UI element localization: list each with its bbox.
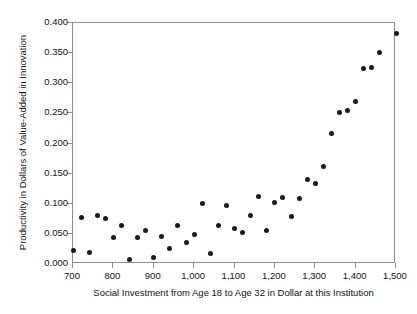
data-point [103,216,108,221]
y-tick-label: 0.300 [44,77,68,87]
data-point [361,66,366,71]
data-point [167,246,172,251]
y-tick-label: 0.150 [44,168,68,178]
data-point [111,235,116,240]
y-tick-label: 0.100 [44,198,68,208]
y-tick-label: 0.400 [44,17,68,27]
data-point [240,230,245,235]
x-tick-label: 1,400 [343,270,367,281]
data-point [216,223,221,228]
y-tick-label: 0.250 [44,107,68,117]
x-tick-mark [395,263,396,268]
x-tick-mark [234,263,235,268]
data-point [369,65,374,70]
x-tick-mark [193,263,194,268]
y-tick-label: 0.050 [44,228,68,238]
data-point [264,228,269,233]
data-point [208,251,213,256]
data-point [87,250,92,255]
y-tick-label: 0.350 [44,47,68,57]
data-point [71,248,76,253]
x-tick-mark [314,263,315,268]
data-point [394,31,399,36]
data-point [175,223,180,228]
data-point [200,201,205,206]
data-point [192,232,197,237]
data-point [184,240,189,245]
data-point [305,177,310,182]
x-tick-mark [112,263,113,268]
x-tick-label: 800 [104,270,120,281]
data-point [79,215,84,220]
data-point [248,213,253,218]
y-tick-label: 0.200 [44,138,68,148]
x-tick-mark [274,263,275,268]
data-point [337,110,342,115]
data-point [329,131,334,136]
scatter-chart-figure: 0.0000.0500.1000.1500.2000.2500.3000.350… [0,0,417,314]
x-axis-title: Social Investment from Age 18 to Age 32 … [72,287,395,298]
x-tick-mark [355,263,356,268]
data-point [95,213,100,218]
data-point [345,108,350,113]
data-point [377,50,382,55]
data-point [256,194,261,199]
data-point [151,255,156,260]
data-point [313,181,318,186]
data-point [143,228,148,233]
data-point [321,164,326,169]
x-tick-label: 1,200 [262,270,286,281]
data-point [289,214,294,219]
data-point [272,200,277,205]
x-tick-label: 700 [64,270,80,281]
x-tick-label: 1,100 [222,270,246,281]
data-point [353,99,358,104]
x-tick-label: 900 [145,270,161,281]
x-tick-label: 1,000 [181,270,205,281]
y-tick-label: 0.000 [44,258,68,268]
y-axis-title: Productivity in Dollars of Value-Added i… [17,22,31,263]
data-point [297,196,302,201]
x-tick-mark [153,263,154,268]
data-point [127,257,132,262]
data-point [280,195,285,200]
data-point [135,235,140,240]
x-tick-label: 1,500 [383,270,407,281]
data-point [232,226,237,231]
data-point [159,234,164,239]
x-tick-mark [72,263,73,268]
plot-area [72,22,395,263]
data-point [224,203,229,208]
x-tick-label: 1,300 [302,270,326,281]
data-point [119,223,124,228]
